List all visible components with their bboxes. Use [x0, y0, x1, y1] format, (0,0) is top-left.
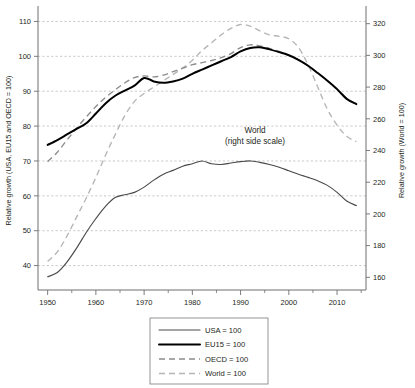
- right-axis-title: Relative growth (World = 100): [397, 103, 406, 198]
- series-line-oecd: [48, 45, 357, 162]
- x-tick-label: 1950: [39, 298, 56, 307]
- chart-figure: 1950196019701980199020002010 40506070809…: [0, 0, 415, 388]
- right-tick-label: 180: [373, 241, 386, 250]
- left-axis-tick-labels: 405060708090100110: [18, 17, 31, 270]
- left-tick-label: 90: [23, 87, 31, 96]
- right-axis-tick-labels: 160180200220240260280300320: [373, 19, 386, 282]
- left-tick-label: 60: [23, 192, 31, 201]
- left-tick-label: 80: [23, 122, 31, 131]
- left-tick-label: 110: [19, 17, 31, 26]
- series-line-world: [48, 24, 357, 261]
- right-tick-label: 220: [373, 178, 386, 187]
- series-line-usa: [48, 161, 357, 277]
- x-axis-tick-labels: 1950196019701980199020002010: [39, 298, 345, 307]
- world-annotation: World (right side scale): [225, 126, 285, 146]
- right-tick-label: 280: [373, 83, 386, 92]
- annotation-line-1: World: [244, 126, 266, 135]
- legend-label: OECD = 100: [205, 355, 248, 364]
- x-tick-label: 1980: [184, 298, 201, 307]
- left-tick-label: 40: [23, 261, 31, 270]
- x-tick-label: 1960: [88, 298, 105, 307]
- chart-legend: USA = 100EU15 = 100OECD = 100World = 100: [150, 318, 268, 384]
- right-tick-label: 300: [373, 51, 386, 60]
- right-tick-label: 200: [373, 210, 386, 219]
- x-tick-label: 2000: [280, 298, 297, 307]
- left-tick-label: 100: [18, 52, 31, 61]
- x-tick-label: 1970: [136, 298, 153, 307]
- x-tick-label: 1990: [232, 298, 249, 307]
- left-tick-label: 50: [23, 226, 31, 235]
- left-axis-title: Relative growth (USA, EU15 and OECD = 10…: [4, 75, 13, 225]
- x-axis-major-ticks: [48, 290, 337, 295]
- relative-growth-line-chart: 1950196019701980199020002010 40506070809…: [0, 0, 415, 388]
- right-tick-label: 240: [373, 146, 386, 155]
- legend-label: USA = 100: [205, 326, 242, 335]
- x-tick-label: 2010: [329, 298, 346, 307]
- series-line-eu15: [48, 47, 357, 145]
- right-tick-label: 320: [373, 19, 386, 28]
- gridlines: [38, 21, 366, 265]
- data-series-group: [48, 24, 357, 276]
- right-tick-label: 160: [373, 273, 386, 282]
- left-tick-label: 70: [23, 157, 31, 166]
- legend-label: EU15 = 100: [205, 340, 245, 349]
- annotation-line-2: (right side scale): [225, 137, 285, 146]
- right-axis-ticks: [366, 24, 370, 278]
- left-axis-ticks: [34, 21, 38, 265]
- legend-label: World = 100: [205, 369, 246, 378]
- right-tick-label: 260: [373, 115, 386, 124]
